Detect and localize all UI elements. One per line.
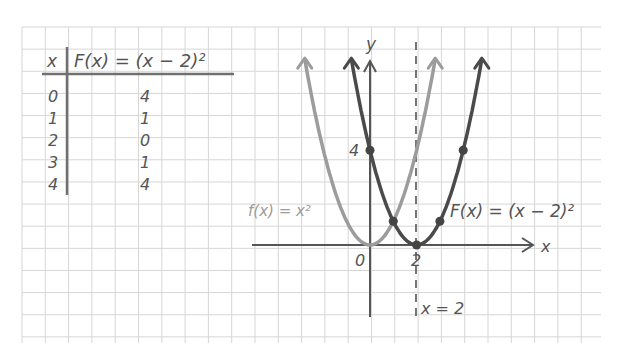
table-cell-x: 4 [48,175,58,194]
data-point [412,241,421,250]
table-cell-fx: 1 [140,109,150,128]
parent-function-label: f(x) = x² [248,202,311,220]
table-cell-x: 3 [48,153,58,172]
table-cell-x: 1 [48,109,58,128]
table-cell-x: 0 [48,87,58,106]
y-axis-label: y [365,34,377,54]
origin-label: 0 [355,251,365,270]
table-header-fx: F(x) = (x − 2)² [74,50,205,71]
data-point [459,146,468,155]
table-cell-fx: 1 [140,153,150,172]
data-point [366,146,375,155]
table-cell-x: 2 [48,131,58,150]
symmetry-line-label: x = 2 [420,299,464,318]
curve-arrowheads [298,58,489,68]
table-header-x: x [46,51,58,71]
x-tick-label: 2 [411,251,421,270]
data-point [435,217,444,226]
table-cell-fx: 4 [140,175,150,194]
axes [252,42,533,318]
shifted-function-label: F(x) = (x − 2)² [450,201,574,221]
data-point [389,217,398,226]
figure: x F(x) = (x − 2)² 0 4 1 1 2 0 3 1 4 4 y … [0,0,631,360]
table-cell-fx: 4 [140,87,150,106]
y-tick-label: 4 [349,141,359,160]
table-cell-fx: 0 [140,131,150,150]
table-rows: 0 4 1 1 2 0 3 1 4 4 [48,87,150,194]
x-axis-label: x [540,237,551,256]
